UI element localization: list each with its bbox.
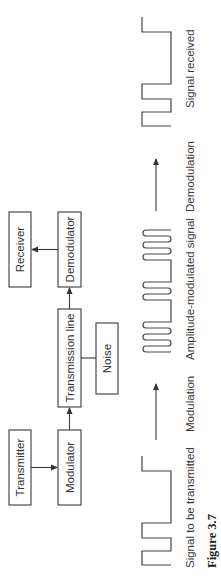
transmitter-label: Transmitter: [14, 438, 26, 496]
signal-transmitted-label: Signal to be transmitted: [184, 447, 196, 568]
transmitted-signal-waveform: [142, 456, 171, 565]
transmitter-block: Transmitter: [9, 430, 31, 505]
received-signal-waveform: [142, 17, 171, 126]
communication-system-diagram: Transmitter Modulator Transmission line …: [0, 0, 221, 579]
noise-block: Noise: [96, 323, 118, 394]
receiver-block: Receiver: [9, 212, 31, 287]
demodulation-label: Demodulation: [184, 141, 196, 212]
figure-caption: Figure 3.7: [205, 514, 219, 568]
modulation-label: Modulation: [184, 376, 196, 432]
figure-canvas: Transmitter Modulator Transmission line …: [0, 0, 221, 579]
noise-label: Noise: [101, 344, 113, 373]
demodulator-block: Demodulator: [58, 212, 81, 287]
transmission-line-block: Transmission line: [58, 309, 81, 407]
am-signal-waveform: [143, 230, 171, 352]
signal-received-label: Signal received: [184, 29, 196, 108]
modulator-label: Modulator: [64, 442, 76, 493]
demodulator-label: Demodulator: [64, 216, 76, 282]
transmission-line-label: Transmission line: [64, 313, 76, 402]
receiver-label: Receiver: [14, 227, 26, 273]
am-signal-label: Amplitude-modulated signal: [184, 218, 196, 360]
modulator-block: Modulator: [58, 430, 81, 505]
